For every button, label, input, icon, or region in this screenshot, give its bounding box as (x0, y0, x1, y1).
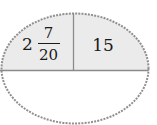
numerator: 7 (44, 24, 54, 42)
top-right-value: 15 (92, 35, 114, 55)
whole-part: 2 (22, 34, 33, 54)
denominator: 20 (39, 46, 58, 64)
divided-ellipse-diagram: 2 7 20 15 (0, 0, 157, 125)
